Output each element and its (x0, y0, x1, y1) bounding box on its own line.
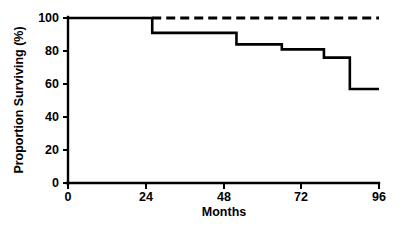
y-tick-label-60: 60 (45, 77, 59, 91)
x-tick-label-24: 24 (139, 190, 153, 204)
y-tick-label-80: 80 (45, 44, 59, 58)
y-tick-label-100: 100 (38, 11, 59, 25)
chart-canvas: 0 20 40 60 80 100 0 24 48 72 96 Months P… (0, 0, 401, 239)
kaplan-meier-survival-chart: 0 20 40 60 80 100 0 24 48 72 96 Months P… (0, 0, 401, 239)
x-tick-label-0: 0 (65, 190, 72, 204)
y-axis-title: Proportion Surviving (%) (12, 26, 26, 173)
x-tick-label-96: 96 (372, 190, 386, 204)
x-axis-title: Months (202, 205, 246, 219)
survival-curve-solid (68, 18, 379, 89)
x-tick-label-48: 48 (217, 190, 231, 204)
y-tick-label-40: 40 (45, 110, 59, 124)
y-tick-label-0: 0 (52, 176, 59, 190)
x-tick-label-72: 72 (294, 190, 308, 204)
y-tick-label-20: 20 (45, 143, 59, 157)
